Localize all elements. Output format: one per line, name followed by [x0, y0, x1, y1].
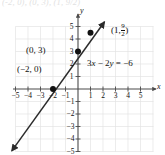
x-axis-letter: x	[157, 82, 161, 91]
eq-operator: −	[96, 58, 106, 68]
axes	[13, 14, 156, 152]
point-label-third-suffix: )	[125, 25, 128, 35]
y-tick-label: −4	[64, 134, 77, 143]
graph-figure: (-2, 0), (0, 3), (1, 9/2)	[0, 0, 165, 154]
x-tick-label: 1	[84, 91, 97, 100]
x-tick-label: −5	[9, 91, 22, 100]
y-tick-label: 2	[65, 59, 78, 68]
point-third	[88, 30, 94, 36]
x-tick-label: 4	[122, 91, 135, 100]
point-label-x-intercept: (−2, 0)	[17, 64, 42, 74]
x-tick-label: −3	[34, 91, 47, 100]
y-tick-label: 5	[65, 22, 78, 31]
eq-equals: =	[114, 58, 124, 68]
y-tick-label: −3	[64, 122, 77, 131]
x-tick-label: −2	[47, 91, 60, 100]
y-axis-letter: y	[80, 6, 84, 15]
point-label-y-intercept: (0, 3)	[26, 45, 46, 55]
x-tick-label: −4	[22, 91, 35, 100]
x-tick-label: 3	[109, 91, 122, 100]
coordinate-plane	[0, 0, 165, 154]
y-tick-label: 4	[65, 34, 78, 43]
y-tick-label: −1	[64, 97, 77, 106]
eq-rhs: −6	[123, 58, 133, 68]
y-tick-label: −2	[64, 109, 77, 118]
y-tick-label: 3	[65, 47, 78, 56]
x-tick-label: 2	[97, 91, 110, 100]
x-tick-label: 5	[134, 91, 147, 100]
point-label-third: (1,92)	[111, 23, 128, 38]
y-tick-label: 1	[65, 72, 78, 81]
equation-label: 3x − 2y = −6	[87, 58, 133, 68]
y-tick-label: −5	[64, 147, 77, 155]
point-label-third-prefix: (1,	[111, 25, 121, 35]
